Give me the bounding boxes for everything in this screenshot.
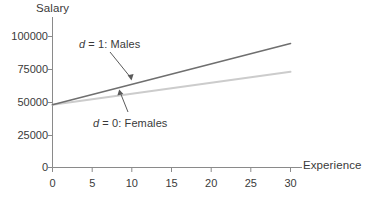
x-tick-label-15: 15 — [152, 177, 192, 189]
y-tick-label-100000: 100000 — [11, 30, 48, 42]
x-tick-label-25: 25 — [231, 177, 271, 189]
y-tick-label-75000: 75000 — [17, 63, 48, 75]
series-line-females — [53, 72, 291, 105]
annotation-arrow-males — [110, 52, 134, 81]
annotation-males-text: = 1: Males — [85, 38, 140, 50]
x-axis-title: Experience — [303, 159, 362, 171]
y-axis-ticks — [48, 37, 53, 168]
y-tick-label-50000: 50000 — [17, 96, 48, 108]
series-line-males — [53, 44, 291, 105]
annotation-label-females: d = 0: Females — [93, 117, 167, 129]
x-tick-label-10: 10 — [112, 177, 152, 189]
annotation-females-text: = 0: Females — [99, 117, 167, 129]
x-tick-label-20: 20 — [191, 177, 231, 189]
x-tick-label-0: 0 — [33, 177, 73, 189]
y-tick-label-25000: 25000 — [17, 129, 48, 141]
y-tick-label-0: 0 — [42, 161, 48, 173]
salary-experience-chart: Salary Experience 100000 75000 50000 250… — [0, 0, 365, 200]
x-tick-label-30: 30 — [271, 177, 311, 189]
annotation-label-males: d = 1: Males — [79, 38, 140, 50]
x-tick-label-5: 5 — [72, 177, 112, 189]
y-axis-title: Salary — [36, 2, 69, 14]
annotation-arrow-females — [117, 90, 128, 113]
x-axis-ticks — [53, 168, 291, 173]
